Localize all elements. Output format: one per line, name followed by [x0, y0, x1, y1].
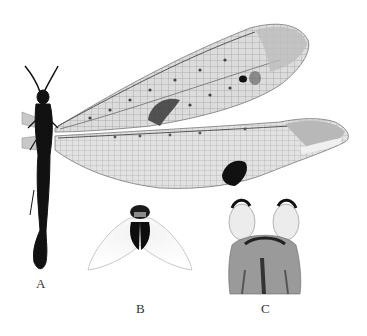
- insect-body: [25, 66, 58, 269]
- panel-label-c: C: [261, 302, 270, 315]
- specimen-figure: A B C: [0, 0, 367, 336]
- panel-c-structure: [229, 200, 301, 294]
- forewing: [55, 24, 309, 132]
- specimen-illustration: [0, 0, 367, 336]
- panel-label-a: A: [36, 277, 45, 290]
- panel-label-b: B: [136, 302, 145, 315]
- panel-b-structure: [88, 205, 192, 270]
